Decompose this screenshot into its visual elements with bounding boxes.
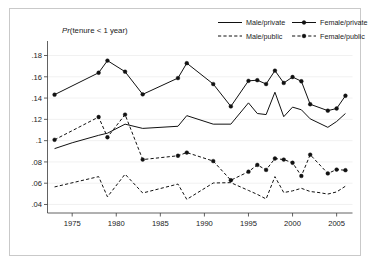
series-marker-female-private (326, 109, 330, 113)
chart-canvas: .04.06.08.1.12.14.16.1819751980198519901… (0, 0, 373, 266)
series-marker-female-public (185, 151, 189, 155)
y-tick-label: .18 (31, 51, 42, 60)
x-tick-label: 1975 (64, 219, 81, 228)
series-marker-female-public (335, 168, 339, 172)
series-marker-female-public (255, 163, 259, 167)
y-tick-label: .1 (36, 136, 42, 145)
series-marker-female-public (344, 168, 348, 172)
series-marker-female-public (53, 138, 57, 142)
series-marker-female-public (326, 172, 330, 176)
legend-label-male-private: Male/private (246, 18, 285, 27)
y-tick-label: .06 (31, 179, 42, 188)
series-marker-female-public (176, 154, 180, 158)
series-line-male-private (55, 92, 346, 148)
series-marker-female-private (282, 81, 286, 85)
series-marker-female-public (123, 113, 127, 117)
series-marker-female-public (264, 168, 268, 172)
series-marker-female-public (291, 161, 295, 165)
series-marker-female-private (308, 102, 312, 106)
series-marker-female-private (247, 79, 251, 83)
series-marker-female-public (141, 158, 145, 162)
series-marker-female-private (53, 93, 57, 97)
series-marker-female-public (247, 170, 251, 174)
x-tick-label: 1995 (240, 219, 257, 228)
x-tick-label: 1990 (196, 219, 213, 228)
line-chart: .04.06.08.1.12.14.16.1819751980198519901… (0, 0, 373, 266)
series-marker-female-private (229, 104, 233, 108)
series-marker-female-private (123, 70, 127, 74)
series-marker-female-public (273, 157, 277, 161)
legend-label-female-public: Female/public (320, 32, 365, 41)
x-tick-label: 1980 (108, 219, 125, 228)
x-tick-label: 1985 (152, 219, 169, 228)
series-line-female-private (55, 61, 346, 111)
series-marker-female-private (185, 61, 189, 65)
series-marker-female-private (264, 82, 268, 86)
y-tick-label: .12 (31, 115, 42, 124)
series-marker-female-public (282, 158, 286, 162)
series-marker-female-private (211, 82, 215, 86)
x-tick-label: 2005 (328, 219, 345, 228)
series-line-female-public (55, 115, 346, 181)
legend-marker-female-public (302, 34, 306, 38)
y-tick-label: .16 (31, 73, 42, 82)
y-tick-label: .04 (31, 200, 42, 209)
legend-marker-female-private (302, 21, 306, 25)
y-tick-label: .14 (31, 94, 42, 103)
series-marker-female-public (299, 174, 303, 178)
series-marker-female-private (299, 79, 303, 83)
x-tick-label: 2000 (284, 219, 301, 228)
series-marker-female-private (291, 75, 295, 79)
series-marker-female-private (335, 107, 339, 111)
series-marker-female-public (229, 178, 233, 182)
series-marker-female-public (211, 159, 215, 163)
series-marker-female-private (255, 78, 259, 82)
series-marker-female-private (176, 76, 180, 80)
series-marker-female-private (141, 92, 145, 96)
legend-label-male-public: Male/public (246, 32, 283, 41)
chart-title: Pr(tenure < 1 year) (62, 26, 128, 35)
y-tick-label: .08 (31, 158, 42, 167)
legend-label-female-private: Female/private (320, 18, 368, 27)
series-marker-female-private (273, 69, 277, 73)
series-marker-female-public (97, 115, 101, 119)
series-marker-female-public (308, 153, 312, 157)
series-marker-female-private (344, 94, 348, 98)
series-marker-female-private (97, 71, 101, 75)
series-marker-female-public (106, 135, 110, 139)
series-marker-female-private (106, 59, 110, 63)
